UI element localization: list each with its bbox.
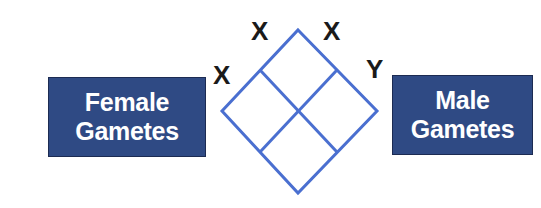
punnett-square-diamond: [0, 0, 541, 208]
